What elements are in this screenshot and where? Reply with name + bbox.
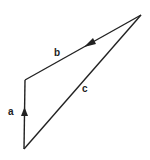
vector-b-arrowhead-icon: [84, 38, 96, 47]
label-c: c: [82, 83, 88, 94]
vector-a-arrowhead-icon: [21, 107, 28, 116]
vector-b-line: [25, 15, 141, 80]
vector-c-line: [24, 15, 141, 149]
label-a: a: [8, 106, 14, 117]
label-b: b: [54, 47, 60, 58]
vector-triangle-diagram: a b c: [0, 0, 150, 160]
